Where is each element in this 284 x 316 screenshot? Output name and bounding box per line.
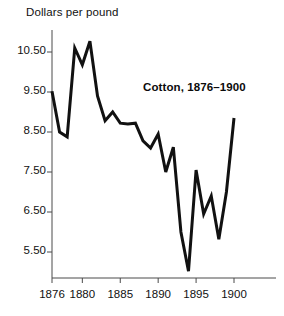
- data-series-line: [52, 41, 234, 271]
- axis-ticks: [47, 52, 234, 283]
- plot-area: [0, 0, 284, 316]
- axes: [52, 30, 276, 278]
- cotton-price-chart: Dollars per pound Cotton, 1876–1900 5.50…: [0, 0, 284, 316]
